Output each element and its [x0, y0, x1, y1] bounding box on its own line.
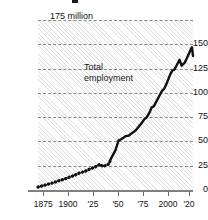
gridline-150 [38, 44, 193, 45]
x-axis-label-1875: 1875 [30, 200, 56, 209]
series-annotation-line1: Total [84, 62, 133, 73]
x-axis-label-2000: 2000 [155, 200, 181, 209]
x-tick-2020 [189, 192, 190, 196]
x-tick-1950 [118, 192, 119, 196]
y-axis-label-75: 75 [174, 112, 208, 121]
x-axis-label-1925: '25 [83, 200, 103, 209]
gridline-25 [38, 166, 193, 167]
y-axis-label-100: 100 [174, 88, 208, 97]
x-tick-1925 [93, 192, 94, 196]
y-axis-label-0: 0 [174, 185, 208, 194]
gridline-100 [38, 93, 193, 94]
x-tick-2000 [168, 192, 169, 196]
gridline-50 [38, 141, 193, 142]
x-tick-1900 [68, 192, 69, 196]
y-axis-label-50: 50 [174, 136, 208, 145]
y-axis-label-175: 175 million [0, 12, 93, 21]
x-tick-1975 [143, 192, 144, 196]
cropped-title-fragment [72, 0, 78, 3]
x-axis-label-2020: '20 [180, 200, 198, 209]
x-axis-label-1900: 1900 [55, 200, 81, 209]
x-axis-label-1975: '75 [133, 200, 153, 209]
series-annotation: Total employment [84, 62, 133, 84]
y-axis-label-125: 125 [174, 64, 208, 73]
plot-area: Total employment [38, 20, 193, 190]
employment-chart: Total employment 175 million 150 125 100… [0, 0, 208, 220]
gridline-75 [38, 117, 193, 118]
x-tick-1875 [43, 192, 44, 196]
series-annotation-line2: employment [84, 73, 133, 84]
x-axis-label-1950: '50 [108, 200, 128, 209]
y-axis-label-25: 25 [174, 161, 208, 170]
y-axis-label-150: 150 [174, 39, 208, 48]
